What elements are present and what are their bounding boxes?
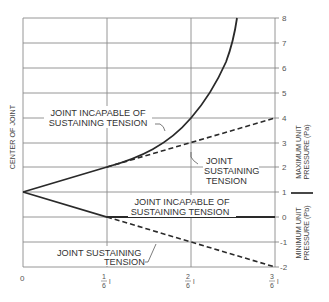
svg-text:SUSTAINING: SUSTAINING [204, 166, 259, 176]
svg-text:PRESSURE (Pb): PRESSURE (Pb) [302, 205, 311, 260]
svg-text:TENSION: TENSION [104, 257, 145, 267]
right-axis-ticks [275, 18, 279, 267]
right-axis-tick-labels: 8 7 6 5 4 3 2 1 0 -1 -2 [280, 14, 288, 272]
annotation-lower-sustaining: JOINT SUSTAINING TENSION [55, 246, 145, 267]
svg-text:0: 0 [282, 213, 287, 222]
svg-text:SUSTAINING TENSION: SUSTAINING TENSION [49, 118, 148, 128]
svg-text:TENSION: TENSION [206, 176, 247, 186]
svg-text:2: 2 [282, 163, 287, 172]
x-axis-tick-labels: 0 1 6 l 2 6 l 3 6 l [20, 273, 279, 289]
svg-text:l: l [109, 278, 111, 285]
svg-text:l: l [277, 278, 279, 285]
annotation-lower-incapable: JOINT INCAPABLE OF SUSTAINING TENSION [128, 195, 236, 217]
svg-text:JOINT INCAPABLE OF: JOINT INCAPABLE OF [50, 108, 146, 118]
svg-text:1: 1 [102, 273, 106, 280]
svg-text:0: 0 [20, 274, 25, 283]
svg-text:JOINT INCAPABLE OF: JOINT INCAPABLE OF [134, 197, 230, 207]
svg-text:PRESSURE (Pa): PRESSURE (Pa) [302, 124, 311, 179]
svg-text:6: 6 [102, 282, 106, 289]
leader-lines [140, 124, 244, 262]
svg-text:-1: -1 [280, 238, 288, 247]
svg-text:6: 6 [282, 64, 287, 73]
max-pressure-axis-label: MAXIMUM UNIT PRESSURE (Pa) [294, 124, 311, 179]
svg-text:7: 7 [282, 39, 287, 48]
svg-text:6: 6 [186, 282, 190, 289]
annotation-upper-sustaining: JOINT SUSTAINING TENSION [203, 155, 259, 187]
svg-text:5: 5 [282, 89, 287, 98]
svg-text:3: 3 [270, 273, 274, 280]
svg-text:SUSTAINING TENSION: SUSTAINING TENSION [131, 207, 230, 217]
svg-text:-2: -2 [280, 263, 288, 272]
svg-text:JOINT: JOINT [206, 156, 233, 166]
svg-text:l: l [193, 278, 195, 285]
svg-text:8: 8 [282, 14, 287, 23]
svg-text:1: 1 [282, 188, 287, 197]
center-of-joint-label: CENTER OF JOINT [8, 104, 17, 169]
pressure-chart: JOINT INCAPABLE OF SUSTAINING TENSION JO… [0, 0, 329, 302]
svg-text:4: 4 [282, 114, 287, 123]
annotation-upper-incapable: JOINT INCAPABLE OF SUSTAINING TENSION [44, 106, 152, 128]
svg-text:3: 3 [282, 139, 287, 148]
svg-text:6: 6 [270, 282, 274, 289]
min-pressure-axis-label: MINIMUM UNIT PRESSURE (Pb) [294, 205, 311, 260]
svg-text:2: 2 [186, 273, 190, 280]
